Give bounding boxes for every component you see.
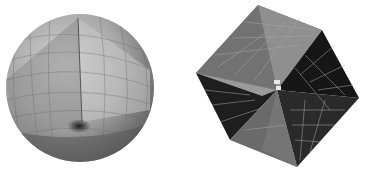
hollow-cube-mesh-graphic <box>185 0 369 176</box>
hollow-cube-mesh-figure <box>185 0 369 176</box>
sphere-mesh-figure <box>0 0 185 176</box>
sphere-mesh-graphic <box>0 0 185 176</box>
